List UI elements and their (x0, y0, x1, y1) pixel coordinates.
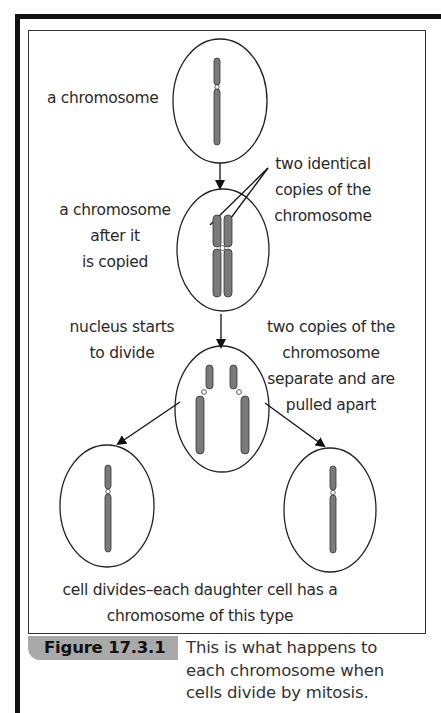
label-line: two identical (268, 155, 378, 173)
label-line: copies of the (268, 181, 378, 199)
label-line: after it (50, 227, 180, 245)
caption-line: each chromosome when (186, 660, 384, 683)
label-line: to divide (66, 344, 178, 362)
label-identical-copies: two identical copies of the chromosome (268, 155, 378, 225)
figure-caption: This is what happens to each chromosome … (186, 637, 384, 705)
label-line: chromosome (260, 344, 402, 362)
caption-line: cells divide by mitosis. (186, 682, 384, 705)
label-after-copied: a chromosome after it is copied (50, 201, 180, 271)
label-line: separate and are (260, 370, 402, 388)
chromosome-1-long-arm (214, 89, 220, 145)
cell-3-outline (175, 346, 269, 472)
figure-number: Figure 17.3.1 (44, 638, 165, 657)
label-a-chromosome: a chromosome (47, 89, 158, 107)
label-line: chromosome of this type (40, 607, 360, 625)
chromosome-1-short-arm (214, 58, 220, 85)
label-copies-separate: two copies of the chromosome separate an… (260, 318, 402, 414)
label-line: cell divides–each daughter cell has a (40, 581, 360, 599)
label-line: two copies of the (260, 318, 402, 336)
label-line: nucleus starts (66, 318, 178, 336)
label-line: a chromosome (50, 201, 180, 219)
label-cell-divides: cell divides–each daughter cell has a ch… (40, 581, 360, 625)
label-nucleus-divide: nucleus starts to divide (66, 318, 178, 362)
caption-line: This is what happens to (186, 637, 384, 660)
label-line: pulled apart (260, 396, 402, 414)
label-line: chromosome (268, 207, 378, 225)
label-line: is copied (50, 253, 180, 271)
arrow-left (118, 402, 180, 444)
